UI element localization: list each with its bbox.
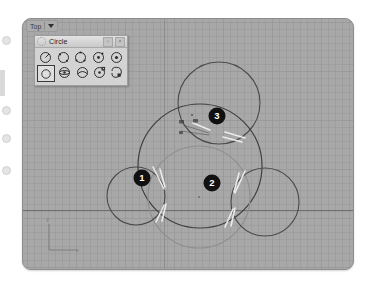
circle-fit-points-icon[interactable] bbox=[91, 65, 107, 80]
circle-toolbar-row-1 bbox=[37, 50, 125, 65]
point-marker-3-label: 3 bbox=[214, 110, 219, 121]
circle-3-point-icon[interactable] bbox=[73, 50, 90, 65]
point-marker-1-label: 1 bbox=[139, 172, 145, 183]
edge-toolbar-divider bbox=[0, 70, 5, 96]
edge-toolbar-icon bbox=[2, 134, 11, 143]
top-circle[interactable] bbox=[178, 62, 260, 144]
options-button[interactable]: ▫ bbox=[103, 37, 113, 47]
edge-toolbar-icon bbox=[2, 36, 11, 45]
center-point-marker bbox=[198, 196, 200, 198]
close-button[interactable]: × bbox=[115, 37, 125, 47]
chevron-down-icon[interactable] bbox=[48, 24, 54, 28]
axis-gizmo: y x bbox=[43, 216, 89, 258]
circle-toolbar[interactable]: Circle ▫ × bbox=[34, 35, 128, 86]
circle-freeform-icon[interactable] bbox=[109, 65, 125, 80]
circle-toolbar-buttons bbox=[35, 48, 127, 85]
viewport-title-bar[interactable]: Top bbox=[26, 20, 58, 32]
circle-2-point-icon[interactable] bbox=[90, 50, 107, 65]
circle-toolbar-title: Circle bbox=[49, 38, 101, 45]
point-marker-2-label: 2 bbox=[209, 177, 214, 188]
cropped-left-toolbar bbox=[0, 30, 14, 190]
circle-center-radius-icon[interactable] bbox=[37, 50, 54, 65]
axis-y-label: y bbox=[46, 216, 49, 222]
title-divider bbox=[44, 22, 45, 30]
circle-dotted-grip-icon[interactable] bbox=[37, 37, 46, 46]
edge-toolbar-icon bbox=[2, 106, 11, 115]
circle-toolbar-titlebar[interactable]: Circle ▫ × bbox=[35, 36, 127, 48]
large-circle[interactable] bbox=[138, 104, 262, 228]
screenshot-root: 1 2 3 y x Top Circle ▫ bbox=[0, 0, 372, 286]
edge-toolbar-icon bbox=[2, 166, 11, 175]
circle-diameter-icon[interactable] bbox=[55, 50, 72, 65]
circle-deformable-icon[interactable] bbox=[37, 65, 55, 82]
viewport-name: Top bbox=[30, 23, 41, 30]
circle-toolbar-row-2 bbox=[37, 65, 125, 82]
circle-around-curve-icon[interactable] bbox=[56, 65, 72, 80]
axis-x-label: x bbox=[76, 247, 79, 253]
circle-tangent-tangent-radius-icon[interactable] bbox=[74, 65, 90, 80]
circle-tangent-icon[interactable] bbox=[108, 50, 125, 65]
